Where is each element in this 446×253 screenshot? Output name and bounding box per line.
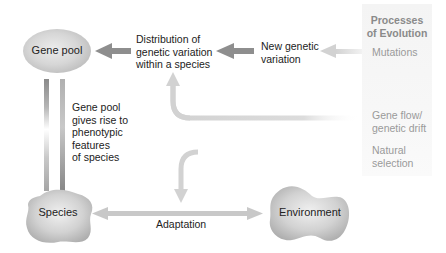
adaptation-label: Adaptation (156, 218, 206, 231)
new-variation-line1: New genetic (261, 40, 319, 53)
new-variation-line2: variation (261, 53, 319, 66)
phenotypic-line3: phenotypic (72, 126, 128, 139)
distribution-line2: genetic variation (136, 46, 212, 59)
evolution-diagram: Processes of Evolution Mutations Gene fl… (0, 0, 446, 253)
arrow-gene-flow (166, 72, 360, 118)
distribution-label: Distribution of genetic variation within… (136, 33, 212, 71)
arrow-new-variation-to-distribution (216, 43, 254, 59)
phenotypic-line4: features (72, 139, 128, 152)
phenotypic-line2: gives rise to (72, 114, 128, 127)
species-label: Species (24, 206, 92, 218)
environment-label: Environment (270, 206, 350, 218)
distribution-line1: Distribution of (136, 33, 212, 46)
arrow-distribution-to-gene-pool (95, 43, 131, 59)
gene-pool-label: Gene pool (22, 44, 92, 56)
bar-gene-pool-species-left (44, 79, 49, 191)
phenotypic-line5: of species (72, 151, 128, 164)
phenotypic-line1: Gene pool (72, 101, 128, 114)
phenotypic-label: Gene pool gives rise to phenotypic featu… (72, 101, 128, 164)
bar-gene-pool-species-right (60, 79, 65, 199)
arrow-natural-selection (174, 152, 360, 203)
distribution-line3: within a species (136, 58, 212, 71)
new-variation-label: New genetic variation (261, 40, 319, 65)
arrow-mutations-to-new-variation (320, 44, 362, 58)
